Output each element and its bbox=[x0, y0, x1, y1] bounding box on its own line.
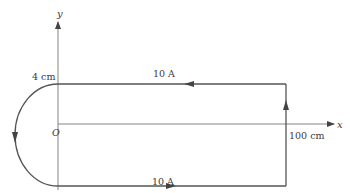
current-top-label: 10 A bbox=[153, 68, 175, 79]
current-arrow-top-icon bbox=[184, 81, 194, 87]
x-axis-label: x bbox=[337, 119, 343, 130]
current-loop-diagram: y x O 4 cm 10 A 10 A 100 cm bbox=[0, 0, 350, 193]
length-label: 100 cm bbox=[289, 130, 324, 141]
current-arrow-right-icon bbox=[283, 100, 289, 110]
y-axis-label: y bbox=[56, 8, 63, 19]
current-arrow-left-icon bbox=[12, 132, 18, 143]
origin-label: O bbox=[52, 127, 60, 138]
radius-label: 4 cm bbox=[32, 71, 55, 82]
current-bottom-label: 10 A bbox=[152, 176, 174, 187]
